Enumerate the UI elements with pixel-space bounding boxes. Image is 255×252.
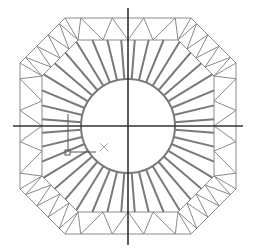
cad-drawing-canvas[interactable] bbox=[0, 0, 255, 252]
axis-lines bbox=[13, 8, 243, 245]
